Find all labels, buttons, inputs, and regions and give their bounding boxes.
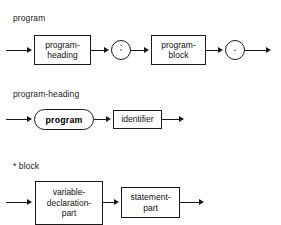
node-terminal-semicolon[interactable]: ; <box>111 40 131 60</box>
rule-label-block: * block <box>13 161 39 171</box>
link-arrow-block-to-period <box>218 47 223 53</box>
node-variable-declaration-part-line1: variable- <box>47 187 91 198</box>
rule-label-program-heading: program-heading <box>13 89 79 99</box>
entry-arrow-program-heading <box>27 116 32 122</box>
node-program-heading-line2: heading <box>45 50 79 61</box>
link-arrow-keyword-to-identifier <box>106 116 111 122</box>
node-program-heading[interactable]: program- heading <box>34 35 91 65</box>
node-program-block[interactable]: program- block <box>151 35 206 65</box>
link-line-heading-to-semicolon <box>91 50 105 51</box>
node-terminal-period[interactable]: . <box>225 40 245 60</box>
node-identifier-label: identifier <box>121 114 153 125</box>
exit-arrow-program <box>266 47 271 53</box>
node-terminal-program-keyword-text: program <box>45 115 82 125</box>
node-variable-declaration-part[interactable]: variable- declaration- part <box>35 181 103 225</box>
node-statement-part-line1: statement- <box>130 192 170 203</box>
exit-line-program-heading <box>162 119 180 120</box>
node-program-heading-line1: program- <box>45 40 79 51</box>
node-program-block-line2: block <box>161 50 195 61</box>
rule-diagram-block: * block variable- declaration- part stat… <box>0 150 281 225</box>
exit-arrow-program-heading <box>179 116 184 122</box>
rule-label-program: program <box>13 13 45 23</box>
node-program-block-line1: program- <box>161 40 195 51</box>
entry-line-block <box>6 202 28 203</box>
exit-arrow-block <box>199 199 204 205</box>
entry-arrow-block <box>27 199 32 205</box>
exit-line-block <box>180 202 200 203</box>
link-arrow-vardecl-to-statement <box>114 199 119 205</box>
rule-diagram-program-heading: program-heading program identifier <box>0 78 281 150</box>
node-terminal-program-keyword[interactable]: program <box>34 109 94 130</box>
syntax-diagram-canvas: program program- heading ; program- bloc… <box>0 0 281 225</box>
node-statement-part-line2: part <box>130 203 170 214</box>
node-statement-part[interactable]: statement- part <box>121 187 180 218</box>
rule-diagram-program: program program- heading ; program- bloc… <box>0 0 281 78</box>
node-terminal-period-text: . <box>234 43 237 52</box>
link-arrow-heading-to-semicolon <box>104 47 109 53</box>
node-identifier[interactable]: identifier <box>113 110 162 129</box>
link-arrow-semicolon-to-block <box>144 47 149 53</box>
entry-arrow-program <box>27 47 32 53</box>
node-terminal-semicolon-text: ; <box>120 43 123 52</box>
exit-line-program <box>245 50 267 51</box>
link-line-semicolon-to-block <box>131 50 145 51</box>
entry-line-program <box>6 50 28 51</box>
node-variable-declaration-part-line3: part <box>47 208 91 219</box>
node-variable-declaration-part-line2: declaration- <box>47 198 91 209</box>
entry-line-program-heading <box>6 119 28 120</box>
